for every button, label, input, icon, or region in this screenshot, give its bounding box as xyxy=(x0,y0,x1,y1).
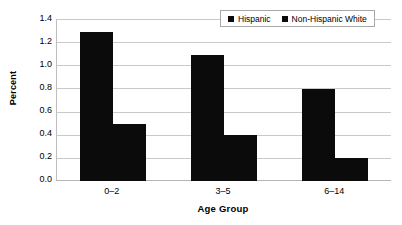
x-tick-label: 3–5 xyxy=(167,186,278,196)
legend-label: Non-Hispanic White xyxy=(292,14,367,24)
x-tick-label: 0–2 xyxy=(56,186,167,196)
x-axis-tick-labels: 0–2 3–5 6–14 xyxy=(56,186,390,196)
bar-hispanic xyxy=(80,32,113,182)
y-axis-title: Percent xyxy=(8,53,18,123)
y-tick-label: 0.0 xyxy=(22,174,52,185)
plot-area xyxy=(56,19,391,181)
y-tick-label: 1.4 xyxy=(22,13,52,24)
bar-group xyxy=(280,19,391,181)
legend-swatch-icon xyxy=(228,16,234,22)
bar-non-hispanic-white xyxy=(113,124,146,182)
bar-non-hispanic-white xyxy=(224,135,257,181)
x-tick-label: 6–14 xyxy=(279,186,390,196)
y-tick-label: 0.2 xyxy=(22,151,52,162)
y-tick-label: 0.6 xyxy=(22,105,52,116)
bar-non-hispanic-white xyxy=(335,158,368,181)
x-axis-title: Age Group xyxy=(56,203,390,214)
y-tick-label: 0.4 xyxy=(22,128,52,139)
legend-entry-non-hispanic-white: Non-Hispanic White xyxy=(282,14,367,24)
bar-group xyxy=(57,19,168,181)
legend-entry-hispanic: Hispanic xyxy=(228,14,271,24)
y-tick-label: 1.2 xyxy=(22,36,52,47)
y-axis-tick-labels: 1.4 1.2 1.0 0.8 0.6 0.4 0.2 0.0 xyxy=(22,13,52,181)
bar-hispanic xyxy=(302,89,335,181)
bar-group xyxy=(168,19,279,181)
bar-hispanic xyxy=(191,55,224,182)
legend-swatch-icon xyxy=(282,16,288,22)
chart-legend: Hispanic Non-Hispanic White xyxy=(220,10,375,27)
y-tick-label: 1.0 xyxy=(22,59,52,70)
bar-chart-figure: Percent 1.4 1.2 1.0 0.8 0.6 0.4 0.2 0.0 xyxy=(0,0,402,225)
bars-layer xyxy=(57,19,391,181)
legend-label: Hispanic xyxy=(238,14,271,24)
y-tick-label: 0.8 xyxy=(22,82,52,93)
